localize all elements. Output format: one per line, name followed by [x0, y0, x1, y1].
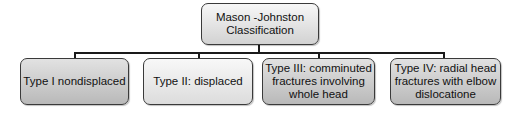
child-label-line2: fractures involving [265, 75, 372, 88]
root-label-line1: Mason -Johnston [216, 11, 304, 24]
child-label: Type II: displaced [153, 75, 243, 88]
child-node-type-3: Type III: comminuted fractures involving… [262, 58, 375, 105]
child-label-line1: Type III: comminuted [265, 62, 372, 75]
horizontal-connector [74, 52, 444, 54]
root-node: Mason -Johnston Classification [201, 3, 319, 45]
child-label-line2: fractures with elbow [395, 75, 497, 88]
root-label-line2: Classification [216, 24, 304, 37]
child-label: Type I nondisplaced [23, 75, 125, 88]
child-node-type-2: Type II: displaced [143, 58, 253, 105]
child-node-type-1: Type I nondisplaced [20, 58, 129, 105]
child-label-line3: dislocatione [395, 88, 497, 101]
child-label-line1: Type IV: radial head [395, 62, 497, 75]
child-label-line3: whole head [265, 88, 372, 101]
child-node-type-4: Type IV: radial head fractures with elbo… [390, 58, 501, 105]
